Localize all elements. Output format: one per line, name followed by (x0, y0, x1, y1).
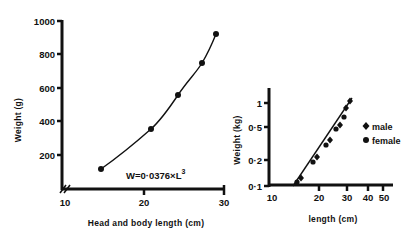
right-y-tick-label: 0·1 (248, 181, 262, 192)
right-x-axis-title: length (cm) (308, 214, 357, 224)
right-y-tick-label: 0·5 (248, 122, 262, 133)
male-point (327, 137, 333, 144)
female-point (294, 179, 299, 184)
legend-label-male: male (372, 122, 393, 132)
data-point (98, 166, 104, 172)
data-point (199, 60, 205, 66)
right-chart: 1 0·5 0·2 0·1 10 20 30 40 50 Weight (kg)… (232, 88, 401, 224)
right-x-tick-label: 50 (379, 192, 390, 203)
fit-curve (101, 34, 216, 169)
legend-label-female: female (372, 136, 401, 146)
left-x-tick-label: 30 (219, 197, 230, 208)
left-chart: 1000 800 600 400 200 10 20 30 Weight (g)… (13, 16, 229, 229)
equation-annotation: W=0·0376×L3 (126, 168, 185, 181)
right-y-axis-title: Weight (kg) (232, 115, 242, 164)
female-point (341, 114, 346, 119)
female-point (310, 159, 315, 164)
left-x-tick-label: 20 (139, 197, 150, 208)
right-x-tick-label: 20 (314, 192, 325, 203)
right-x-tick-label: 30 (342, 192, 353, 203)
left-y-tick-label: 800 (39, 49, 55, 60)
left-y-tick-label: 400 (39, 116, 55, 127)
left-y-tick-label: 1000 (34, 16, 55, 27)
female-point (323, 142, 328, 147)
left-y-axis-title: Weight (g) (13, 98, 23, 142)
left-y-tick-label: 200 (39, 150, 55, 161)
right-x-tick-label: 10 (267, 192, 278, 203)
male-points (298, 98, 353, 182)
left-x-tick-label: 10 (60, 197, 71, 208)
left-data-points (98, 31, 219, 172)
right-x-tick-label: 40 (363, 192, 374, 203)
fit-line (293, 98, 352, 186)
right-y-tick-label: 1 (257, 98, 263, 109)
figure: 1000 800 600 400 200 10 20 30 Weight (g)… (0, 0, 414, 240)
diamond-icon (363, 122, 370, 130)
circle-icon (363, 137, 369, 143)
data-point (213, 31, 219, 37)
female-point (333, 126, 338, 131)
left-y-tick-label: 600 (39, 83, 55, 94)
right-y-tick-label: 0·2 (248, 155, 262, 166)
legend: male female (363, 122, 401, 146)
data-point (148, 126, 154, 132)
left-x-axis-title: Head and body length (cm) (88, 218, 205, 228)
data-point (175, 92, 181, 98)
